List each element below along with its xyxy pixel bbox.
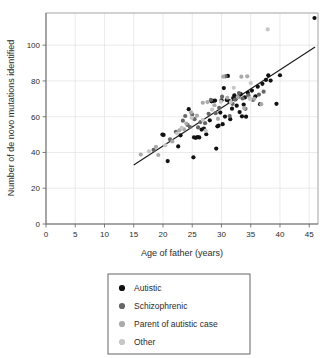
data-point [205,100,209,104]
data-point [245,74,249,78]
legend-marker-icon [119,339,125,345]
data-point [278,73,282,77]
data-point [312,16,316,20]
data-point [176,144,180,148]
data-point [216,124,220,128]
data-point [223,114,227,118]
legend-border [108,274,250,354]
data-point [214,111,218,115]
data-point [196,125,200,129]
legend-marker-icon [119,321,125,327]
legend-item-label: Autistic [134,283,162,293]
data-point [264,78,268,82]
data-point [184,121,188,125]
data-point [197,135,201,139]
data-point [170,139,174,143]
data-point [266,27,270,31]
data-point [248,97,252,101]
legend-item-label: Parent of autistic case [134,319,218,329]
legend-marker-icon [119,285,125,291]
data-point [195,114,199,118]
data-point [216,117,220,121]
y-tick-label: 0 [36,220,41,229]
plot-frame [46,13,318,224]
data-point [204,132,208,136]
data-point [213,99,217,103]
x-tick-label: 45 [305,230,314,239]
data-point [242,102,246,106]
data-point [208,118,212,122]
x-tick-label: 5 [73,230,78,239]
legend-item-label: Schizophrenic [134,301,188,311]
data-point [163,143,167,147]
y-tick-label: 40 [31,148,40,157]
data-point [229,100,233,104]
data-point [212,103,216,107]
data-point [166,159,170,163]
data-point [230,107,234,111]
data-point [232,86,236,90]
data-point [175,131,179,135]
data-point [218,110,222,114]
data-point [257,92,261,96]
x-tick-label: 0 [44,230,49,239]
x-axis-title: Age of father (years) [141,248,223,258]
x-axis: 051015202530354045 [44,224,318,239]
gridlines [46,13,318,224]
data-point [191,155,195,159]
x-tick-label: 40 [276,230,285,239]
data-point [221,75,225,79]
data-point [244,115,248,119]
chart-canvas: 051015202530354045 020406080100 Age of f… [0,0,329,358]
data-point [181,119,185,123]
y-tick-label: 20 [31,184,40,193]
series-autistic [160,16,316,163]
data-point [214,146,218,150]
data-point [161,133,165,137]
data-point [210,107,214,111]
data-point [259,102,263,106]
data-point [274,102,278,106]
data-point [238,110,242,114]
data-points [139,16,317,163]
data-point [242,106,246,110]
x-tick-label: 25 [188,230,197,239]
x-tick-label: 35 [246,230,255,239]
data-point [260,82,264,86]
data-point [256,85,260,89]
data-point [189,110,193,114]
data-point [239,75,243,79]
scatter-plot-figure: 051015202530354045 020406080100 Age of f… [0,0,329,358]
data-point [156,153,160,157]
x-tick-label: 10 [100,230,109,239]
data-point [235,104,239,108]
legend-marker-icon [119,303,125,309]
data-point [237,91,241,95]
data-point [209,98,213,102]
data-point [147,149,151,153]
data-point [154,145,158,149]
data-point [240,96,244,100]
trendline [134,47,315,165]
data-point [183,114,187,118]
y-tick-label: 60 [31,113,40,122]
data-point [217,106,221,110]
x-tick-label: 15 [129,230,138,239]
data-point [219,100,223,104]
x-tick-label: 30 [217,230,226,239]
data-point [207,112,211,116]
x-tick-label: 20 [159,230,168,239]
data-point [201,101,205,105]
data-point [249,81,253,85]
legend: AutisticSchizophrenicParent of autistic … [108,274,250,354]
data-point [221,122,225,126]
y-axis-title: Number of de novo mutations identified [6,40,16,197]
data-point [228,114,232,118]
series-schizophrenic [152,74,266,152]
data-point [240,114,244,118]
y-tick-label: 80 [31,77,40,86]
data-point [188,125,192,129]
data-point [204,129,208,133]
y-tick-label: 100 [27,41,41,50]
legend-item-label: Other [134,337,155,347]
